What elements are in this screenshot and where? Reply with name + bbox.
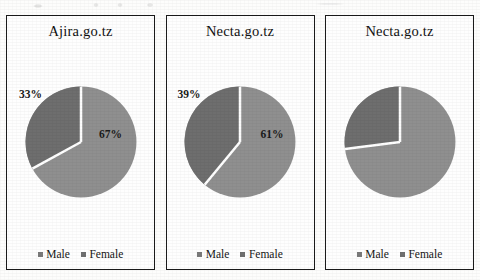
legend-swatch-male-icon bbox=[197, 252, 202, 257]
pie-chart-area: 39% 61% bbox=[167, 40, 314, 248]
legend-swatch-female-icon bbox=[400, 252, 405, 257]
pie-male-slice bbox=[344, 87, 399, 149]
pie-chart-area bbox=[326, 40, 473, 248]
legend-swatch-male-icon bbox=[357, 252, 362, 257]
legend-label-female: Female bbox=[249, 248, 283, 260]
pie-chart-area: 33% 67% bbox=[7, 40, 154, 248]
legend-item-male: Male bbox=[197, 248, 229, 260]
legend-label-female: Female bbox=[89, 248, 123, 260]
pie-chart bbox=[337, 79, 463, 205]
panel-title: Necta.go.tz bbox=[206, 23, 274, 40]
legend-swatch-female-icon bbox=[240, 252, 245, 257]
legend-label-male: Male bbox=[365, 248, 389, 260]
legend-item-male: Male bbox=[357, 248, 389, 260]
slice-label-male: 33% bbox=[19, 88, 42, 100]
legend-label-male: Male bbox=[206, 248, 230, 260]
legend-item-female: Female bbox=[400, 248, 442, 260]
chart-panel-necta-labeled: Necta.go.tz 39% 61% Male Female bbox=[166, 15, 315, 270]
pie-chart-panel-group: Ajira.go.tz 33% 67% Male Female Necta.go… bbox=[0, 15, 480, 277]
legend: Male Female bbox=[197, 248, 283, 260]
legend-swatch-female-icon bbox=[81, 252, 86, 257]
scan-artifact bbox=[0, 0, 480, 14]
panel-title: Ajira.go.tz bbox=[48, 23, 112, 40]
panel-title: Necta.go.tz bbox=[365, 23, 433, 40]
legend-item-female: Female bbox=[240, 248, 282, 260]
chart-panel-necta-unlabeled: Necta.go.tz Male Female bbox=[325, 15, 474, 270]
legend-item-male: Male bbox=[38, 248, 70, 260]
slice-label-female: 67% bbox=[99, 128, 122, 140]
legend: Male Female bbox=[38, 248, 124, 260]
slice-label-male: 39% bbox=[178, 88, 201, 100]
slice-label-female: 61% bbox=[261, 128, 284, 140]
legend-item-female: Female bbox=[81, 248, 123, 260]
chart-panel-ajira: Ajira.go.tz 33% 67% Male Female bbox=[6, 15, 155, 270]
legend-label-male: Male bbox=[46, 248, 70, 260]
legend: Male Female bbox=[357, 248, 443, 260]
legend-swatch-male-icon bbox=[38, 252, 43, 257]
legend-label-female: Female bbox=[408, 248, 442, 260]
